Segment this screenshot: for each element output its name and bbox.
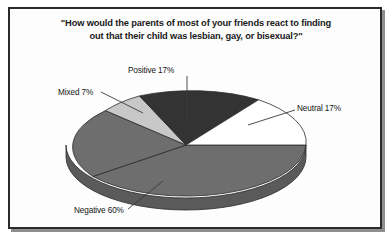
pie-label-neutral: Neutral 17% (297, 104, 341, 113)
pie-label-negative: Negative 60% (74, 206, 124, 215)
pie-chart (0, 0, 391, 239)
pie-label-positive: Positive 17% (128, 66, 174, 75)
figure-screenshot: "How would the parents of most of your f… (0, 0, 391, 239)
pie-label-mixed: Mixed 7% (58, 88, 93, 97)
